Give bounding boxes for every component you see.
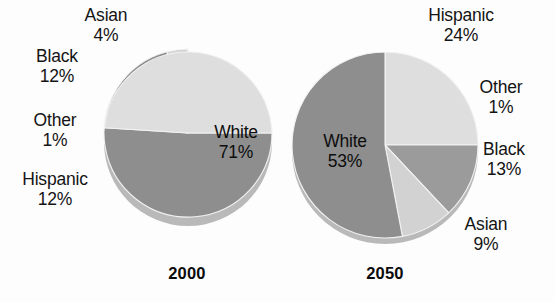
label-2000-other: Other 1% (6, 111, 104, 150)
label-2050-asian: Asian 9% (440, 215, 532, 254)
label-2050-hispanic-name: Hispanic (396, 6, 526, 26)
label-2050-other: Other 1% (455, 78, 547, 117)
label-2000-hispanic-value: 12% (0, 190, 110, 210)
label-2050-hispanic-value: 24% (396, 26, 526, 46)
label-2000-asian-name: Asian (57, 6, 155, 26)
label-2000-black-name: Black (8, 47, 106, 67)
label-2050-asian-name: Asian (440, 215, 532, 235)
label-2000-other-value: 1% (6, 131, 104, 151)
label-2000-hispanic-name: Hispanic (0, 170, 110, 190)
label-2050-hispanic: Hispanic 24% (396, 6, 526, 45)
label-2000-asian-value: 4% (57, 26, 155, 46)
label-2000-white: White 71% (196, 123, 276, 162)
label-2000-hispanic: Hispanic 12% (0, 170, 110, 209)
label-2050-white-value: 53% (305, 152, 385, 172)
label-2050-black: Black 13% (458, 140, 550, 179)
figure-canvas: Asian 4% Black 12% Other 1% Hispanic 12%… (0, 0, 555, 302)
label-2000-black-value: 12% (8, 67, 106, 87)
pie-2000-slice-hispanic (104, 52, 272, 133)
label-2000-black: Black 12% (8, 47, 106, 86)
label-2050-other-value: 1% (455, 98, 547, 118)
label-2000-other-name: Other (6, 111, 104, 131)
pie-2050-year-caption: 2050 (345, 264, 425, 283)
label-2000-white-value: 71% (196, 143, 276, 163)
pie-2000-year-caption: 2000 (147, 264, 227, 283)
label-2050-black-value: 13% (458, 160, 550, 180)
label-2050-black-name: Black (458, 140, 550, 160)
label-2050-white: White 53% (305, 132, 385, 171)
label-2000-asian: Asian 4% (57, 6, 155, 45)
label-2050-white-name: White (305, 132, 385, 152)
label-2050-asian-value: 9% (440, 235, 532, 255)
label-2050-other-name: Other (455, 78, 547, 98)
label-2000-white-name: White (196, 123, 276, 143)
